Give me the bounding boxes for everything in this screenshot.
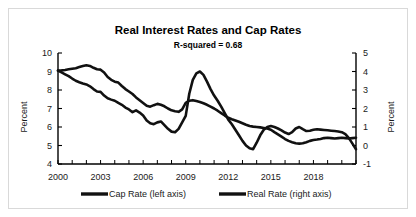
x-tick-label: 2018 <box>303 172 323 182</box>
y-tick-label-left: 6 <box>47 122 52 132</box>
series-line-real-rate <box>58 71 356 150</box>
y-tick-label-left: 7 <box>47 104 52 114</box>
line-chart: Real Interest Rates and Cap Rates R-squa… <box>9 9 407 208</box>
x-tick-label: 2012 <box>218 172 238 182</box>
x-tick-label: 2006 <box>133 172 153 182</box>
y-axis-left: 10987654 <box>42 48 62 169</box>
chart-title: Real Interest Rates and Cap Rates <box>115 24 302 36</box>
y-tick-label-left: 8 <box>47 85 52 95</box>
y-axis-right: 543210-1 <box>352 48 371 169</box>
chart-figure: Real Interest Rates and Cap Rates R-squa… <box>0 0 416 217</box>
y-tick-label-right: -1 <box>363 159 371 169</box>
chart-frame: Real Interest Rates and Cap Rates R-squa… <box>8 8 408 209</box>
x-tick-label: 2000 <box>48 172 68 182</box>
legend-label: Real Rate (right axis) <box>247 189 332 199</box>
series-line-cap-rate <box>58 65 356 143</box>
y-tick-label-right: 3 <box>363 85 368 95</box>
x-tick-label: 2009 <box>176 172 196 182</box>
y-tick-label-left: 9 <box>47 67 52 77</box>
y-tick-label-left: 4 <box>47 159 52 169</box>
chart-subtitle: R-squared = 0.68 <box>174 40 243 50</box>
x-tick-label: 2003 <box>91 172 111 182</box>
y-tick-label-left: 5 <box>47 141 52 151</box>
y-axis-right-title: Percent <box>386 101 396 133</box>
y-tick-label-right: 2 <box>363 104 368 114</box>
y-tick-label-right: 5 <box>363 48 368 58</box>
y-tick-label-left: 10 <box>42 48 52 58</box>
y-tick-label-right: 1 <box>363 122 368 132</box>
y-axis-left-title: Percent <box>19 101 29 133</box>
x-tick-label: 2015 <box>261 172 281 182</box>
chart-legend: Cap Rate (left axis)Real Rate (right axi… <box>81 189 332 199</box>
y-tick-label-right: 4 <box>363 67 368 77</box>
legend-label: Cap Rate (left axis) <box>109 189 186 199</box>
y-tick-label-right: 0 <box>363 141 368 151</box>
